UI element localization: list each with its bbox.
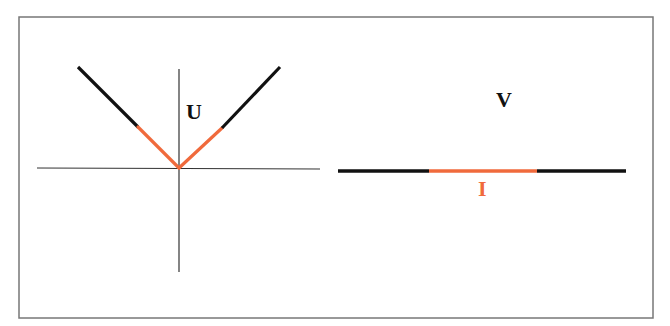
label-u: U	[186, 101, 202, 123]
label-i: I	[478, 178, 487, 200]
v-left-accent-segment	[138, 127, 179, 168]
diagram-frame	[19, 17, 653, 318]
diagram-canvas	[0, 0, 670, 326]
v-left-black-segment	[78, 67, 138, 127]
v-right-accent-segment	[179, 128, 222, 168]
v-right-black-segment	[222, 67, 280, 128]
label-v: V	[496, 89, 512, 111]
